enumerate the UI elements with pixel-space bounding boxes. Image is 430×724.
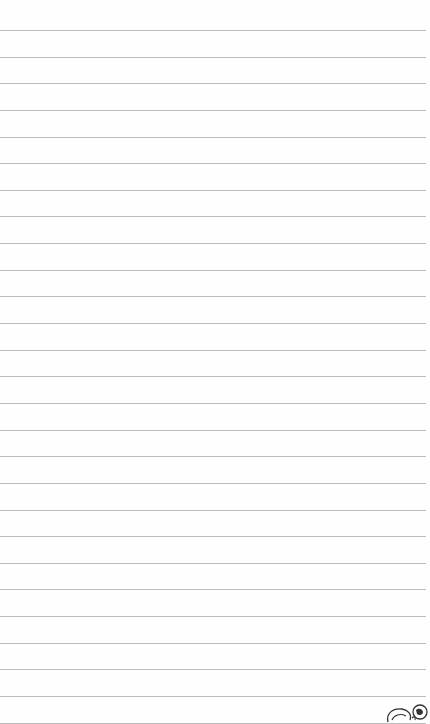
ruled-line — [0, 483, 426, 484]
ruled-line — [0, 669, 426, 670]
ruled-line — [0, 696, 426, 697]
ruled-line — [0, 376, 426, 377]
ruled-line — [0, 30, 426, 31]
ruled-line — [0, 57, 426, 58]
ruled-line — [0, 589, 426, 590]
cartoon-doodle-icon — [382, 698, 430, 724]
ruled-line — [0, 163, 426, 164]
lined-paper — [0, 0, 430, 724]
ruled-line — [0, 83, 426, 84]
ruled-line — [0, 190, 426, 191]
ruled-line — [0, 616, 426, 617]
ruled-line — [0, 536, 426, 537]
ruled-line — [0, 243, 426, 244]
ruled-line — [0, 216, 426, 217]
ruled-line — [0, 270, 426, 271]
ruled-line — [0, 296, 426, 297]
ruled-line — [0, 430, 426, 431]
ruled-line — [0, 403, 426, 404]
ruled-line — [0, 323, 426, 324]
ruled-line — [0, 110, 426, 111]
ruled-line — [0, 350, 426, 351]
ruled-line — [0, 643, 426, 644]
ruled-line — [0, 137, 426, 138]
ruled-line — [0, 456, 426, 457]
ruled-line — [0, 563, 426, 564]
ruled-line — [0, 510, 426, 511]
